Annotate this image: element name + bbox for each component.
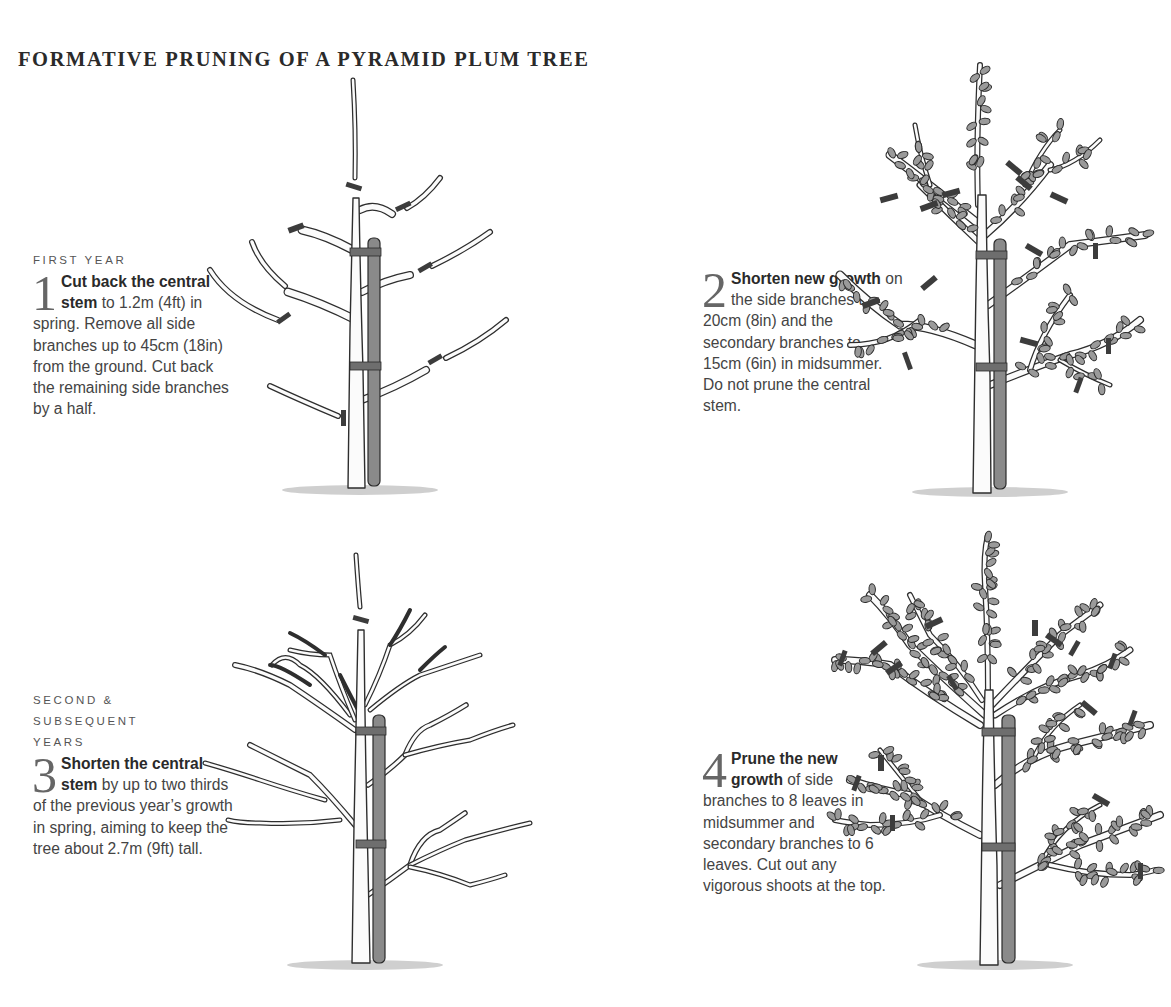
leaf-icon <box>1110 237 1121 244</box>
leaf-icon <box>869 584 876 595</box>
step-number: 2 <box>702 270 727 310</box>
leaf-icon <box>876 335 888 344</box>
leaf-icon <box>1095 823 1102 834</box>
leaf-icon <box>984 531 993 543</box>
step-kicker: SECOND & SUBSEQUENT YEARS <box>33 690 183 753</box>
leaf-icon <box>1056 118 1064 130</box>
leaf-icon <box>1142 229 1154 238</box>
tree-1-illustration <box>200 70 520 500</box>
leaf-icon <box>893 335 904 342</box>
leaf-icon <box>1088 810 1096 822</box>
leaf-icon <box>990 641 1001 648</box>
tree-2-illustration <box>810 55 1171 500</box>
leaf-icon <box>1153 867 1164 874</box>
tree-tie <box>976 251 1007 259</box>
leaf-icon <box>1041 322 1047 333</box>
leaf-icon <box>915 141 923 153</box>
tree-tie <box>356 840 386 848</box>
step-number: 1 <box>32 273 57 313</box>
cut-mark <box>352 615 369 624</box>
leaf-icon <box>1033 258 1040 269</box>
leaf-icon <box>1059 237 1066 248</box>
leaf-icon <box>1099 876 1110 889</box>
leaf-icon <box>1073 858 1082 870</box>
stake <box>1002 715 1015 963</box>
leaf-icon <box>980 104 993 114</box>
tree-tie <box>356 727 386 735</box>
tree-3-illustration <box>200 545 540 975</box>
tree-tie <box>350 362 381 370</box>
tree-tie <box>976 363 1007 371</box>
tree-tie <box>982 728 1015 736</box>
leaf-icon <box>859 657 870 664</box>
page-title: FORMATIVE PRUNING OF A PYRAMID PLUM TREE <box>18 48 590 71</box>
leaf-icon <box>1020 676 1032 685</box>
leaf-icon <box>989 542 1000 549</box>
leaf-icon <box>835 809 842 820</box>
leaf-icon <box>987 597 999 605</box>
tree-tie <box>982 843 1015 851</box>
leaf-icon <box>971 582 983 591</box>
step-number: 3 <box>32 755 57 795</box>
leaf-icon <box>1106 225 1114 237</box>
leaf-icon <box>1046 720 1057 727</box>
leaf-icon <box>1116 816 1123 827</box>
central-stem <box>348 198 365 488</box>
stake <box>373 715 385 963</box>
leaf-icon <box>1079 621 1087 633</box>
leaf-icon <box>1120 332 1131 339</box>
central-stem <box>352 630 370 963</box>
leaf-icon <box>999 205 1006 216</box>
leaf-icon <box>1096 840 1103 851</box>
tree-4-illustration <box>810 525 1171 975</box>
leaf-icon <box>896 150 909 160</box>
leaf-icon <box>937 632 950 642</box>
leaf-icon <box>922 638 934 647</box>
leaf-icon <box>961 660 968 671</box>
leaf-icon <box>912 784 923 790</box>
leaf-icon <box>945 662 957 671</box>
leaf-icon <box>907 634 919 643</box>
leaf-icon <box>920 678 932 687</box>
leaf-icon <box>1134 325 1146 334</box>
tree-tie <box>350 248 381 256</box>
leaf-icon <box>1099 723 1106 734</box>
leaf-icon <box>860 595 872 603</box>
step-number: 4 <box>702 750 727 790</box>
